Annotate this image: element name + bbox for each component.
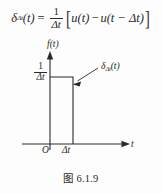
y-tick-numerator: 1 <box>38 62 43 72</box>
equation-term-1: u(t) <box>71 12 89 25</box>
equation-fraction: 1 Δt <box>50 6 63 30</box>
equation-fraction-denominator: Δt <box>50 19 62 31</box>
x-axis-arrow-icon <box>122 141 131 147</box>
pulse-outline <box>50 77 73 144</box>
y-axis-arrow-icon <box>47 51 53 60</box>
equation-term-2: u(t − Δt) <box>100 12 144 25</box>
bracket-close: ] <box>145 10 150 26</box>
x-axis-label: t <box>131 140 134 150</box>
pulse-annotation: δΔt(t) <box>101 62 120 72</box>
figure-container: δΔt(t) = 1 Δt [ u(t) − u(t − Δt) ] <box>0 0 162 193</box>
y-axis-label: f(t) <box>47 40 59 50</box>
y-tick-label-one-over-delta-t: 1 Δt <box>34 62 47 83</box>
plot-svg <box>0 36 162 166</box>
equation: δΔt(t) = 1 Δt [ u(t) − u(t − Δt) ] <box>0 6 162 30</box>
bracket-open: [ <box>66 10 71 26</box>
y-tick-denominator: Δt <box>36 73 44 83</box>
annotation-leader-line <box>78 68 99 81</box>
origin-label: O <box>42 146 49 156</box>
plot-area: f(t) t O Δt 1 Δt δΔt(t) <box>0 36 162 166</box>
figure-caption: 图 6.1.9 <box>0 170 162 185</box>
x-tick-label-delta-t: Δt <box>62 146 70 156</box>
equation-minus: − <box>89 12 100 25</box>
equation-fraction-numerator: 1 <box>51 6 61 18</box>
equation-lhs-arg: (t) <box>23 12 35 25</box>
equation-equals: = <box>35 12 48 25</box>
annotation-arrow-icon <box>73 82 82 87</box>
annotation-arg: (t) <box>111 61 120 71</box>
